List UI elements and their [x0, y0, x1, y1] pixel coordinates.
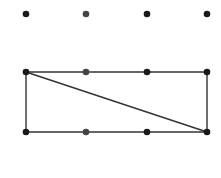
line-segment	[26, 72, 207, 132]
grid-dot	[83, 129, 90, 136]
grid-dot	[204, 11, 211, 18]
grid-dot	[23, 129, 30, 136]
grid-dot	[144, 69, 151, 76]
grid-dot	[204, 129, 211, 136]
grid-dot	[144, 129, 151, 136]
grid-dot	[23, 69, 30, 76]
grid-dot	[144, 11, 151, 18]
grid-dot	[83, 11, 90, 18]
rectangle-with-diagonal	[26, 72, 207, 132]
dot-grid-diagram	[0, 0, 221, 178]
grid-dot	[83, 69, 90, 76]
grid-dot	[204, 69, 211, 76]
grid-dot	[23, 11, 30, 18]
grid-dots	[23, 11, 211, 136]
